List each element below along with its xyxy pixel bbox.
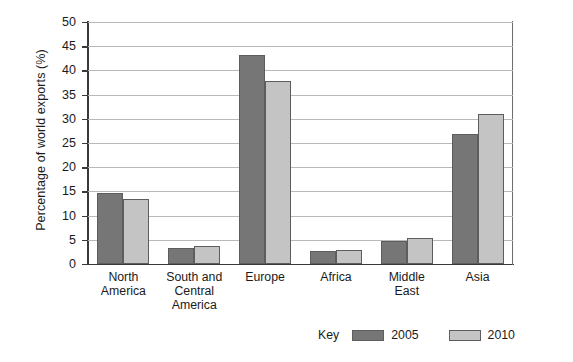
bar-2005-0 — [97, 193, 123, 264]
y-axis-tick-label: 10 — [36, 210, 76, 223]
bar-group — [381, 22, 433, 264]
y-axis-tick-label: 25 — [36, 137, 76, 150]
bar-group — [310, 22, 362, 264]
x-axis-label-3: Africa — [301, 270, 372, 284]
bar-2010-5 — [478, 114, 504, 264]
x-axis-label-2: Europe — [230, 270, 301, 284]
y-axis-tick-label: 30 — [36, 113, 76, 126]
gridline — [88, 167, 513, 168]
y-axis-tick-label: 50 — [36, 16, 76, 29]
bar-group — [239, 22, 291, 264]
plot-area — [88, 22, 513, 264]
x-axis-label-line: East — [371, 284, 442, 298]
x-axis-label-line: America — [159, 298, 230, 312]
bar-2005-5 — [452, 134, 478, 264]
gridline — [88, 95, 513, 96]
bar-2005-2 — [239, 55, 265, 264]
gridline — [88, 70, 513, 71]
legend-label-2010: 2010 — [488, 328, 515, 342]
gridline — [88, 216, 513, 217]
y-axis-tick-label: 15 — [36, 185, 76, 198]
x-axis-label-line: Africa — [301, 270, 372, 284]
x-axis-label-1: South andCentralAmerica — [159, 270, 230, 313]
legend-entry-2010: 2010 — [449, 328, 515, 342]
x-axis-label-4: MiddleEast — [371, 270, 442, 298]
bar-group — [168, 22, 220, 264]
gridline — [88, 143, 513, 144]
bar-2010-0 — [123, 199, 149, 264]
y-axis-tick-label: 5 — [36, 234, 76, 247]
bar-2010-3 — [336, 250, 362, 264]
bar-group — [97, 22, 149, 264]
bar-2005-4 — [381, 241, 407, 264]
x-axis-label-line: Middle — [371, 270, 442, 284]
legend-entry-2005: 2005 — [352, 328, 418, 342]
gridline — [88, 46, 513, 47]
x-axis-label-line: Europe — [230, 270, 301, 284]
bar-2010-1 — [194, 246, 220, 264]
y-axis-tick-label: 45 — [36, 40, 76, 53]
gridline — [88, 240, 513, 241]
legend-swatch-2005 — [352, 330, 384, 341]
bar-group — [452, 22, 504, 264]
y-axis-tick-label: 20 — [36, 161, 76, 174]
bar-2005-1 — [168, 248, 194, 264]
legend-label-2005: 2005 — [391, 328, 418, 342]
bar-2005-3 — [310, 251, 336, 264]
bar-2010-4 — [407, 238, 433, 264]
legend-swatch-2010 — [449, 330, 481, 341]
bar-chart: Percentage of world exports (%) 05101520… — [0, 0, 573, 362]
chart-legend: Key 2005 2010 — [318, 328, 545, 342]
legend-title: Key — [318, 328, 339, 342]
x-axis-label-line: Central — [159, 284, 230, 298]
x-axis-label-line: North — [88, 270, 159, 284]
x-axis-label-line: Asia — [442, 270, 513, 284]
gridline — [88, 191, 513, 192]
bar-2010-2 — [265, 81, 291, 264]
y-axis-tick-label: 35 — [36, 89, 76, 102]
y-axis-tick-label: 40 — [36, 64, 76, 77]
x-axis-label-line: South and — [159, 270, 230, 284]
x-axis-label-line: America — [88, 284, 159, 298]
gridline — [88, 22, 513, 23]
x-axis-label-5: Asia — [442, 270, 513, 284]
gridline — [88, 119, 513, 120]
y-axis-tick-label: 0 — [36, 258, 76, 271]
x-axis-label-0: NorthAmerica — [88, 270, 159, 298]
